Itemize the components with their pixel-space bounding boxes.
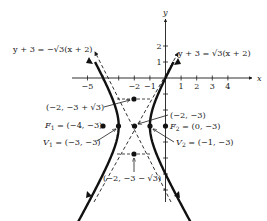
asymptote-positive-label: y + 3 = √3(x + 2) bbox=[177, 48, 251, 58]
x-tick-label: 4 bbox=[225, 82, 230, 91]
v2-label: V2 = (−1, −3) bbox=[176, 137, 234, 148]
x-tick-label: 3 bbox=[210, 82, 215, 91]
asymptote-negative-label: y + 3 = −√3(x + 2) bbox=[12, 44, 93, 54]
f1-label: F1 = (−4, −3) bbox=[44, 120, 102, 131]
x-tick-label: 1 bbox=[179, 82, 184, 91]
y-axis-label: y bbox=[162, 8, 168, 17]
v1-label: V1 = (−3, −3) bbox=[43, 137, 101, 148]
f2-label: F2 = (0, −3) bbox=[169, 121, 220, 132]
x-tick-label: 2 bbox=[194, 82, 199, 91]
x-tick-label: −2 bbox=[128, 82, 140, 91]
x-tick-label: −1 bbox=[144, 82, 156, 91]
x-tick-label: −5 bbox=[82, 82, 94, 91]
point-f2 bbox=[163, 123, 168, 128]
point-bottom bbox=[131, 151, 136, 156]
point-top bbox=[131, 96, 136, 101]
diagram-canvas: −5−2−11234 x 21 y bbox=[0, 0, 267, 221]
y-tick-label: 1 bbox=[156, 58, 161, 67]
point-center-label: (−2, −3) bbox=[170, 110, 206, 120]
point-v2 bbox=[147, 123, 152, 128]
point-v1 bbox=[116, 123, 121, 128]
y-tick-label: 2 bbox=[156, 42, 161, 51]
x-axis-label: x bbox=[257, 74, 262, 83]
point-bottom-label: (−2, −3 − √3) bbox=[103, 173, 161, 183]
point-top-label: (−2, −3 + √3) bbox=[46, 102, 104, 112]
point-center bbox=[132, 123, 137, 128]
hyperbola-diagram: −5−2−11234 x 21 y bbox=[0, 0, 267, 221]
